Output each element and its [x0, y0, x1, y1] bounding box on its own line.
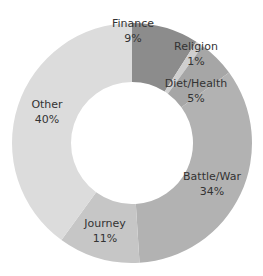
donut-slices: [12, 23, 252, 263]
donut-chart: Finance9%Religion1%Diet/Health5%Battle/W…: [0, 0, 263, 276]
